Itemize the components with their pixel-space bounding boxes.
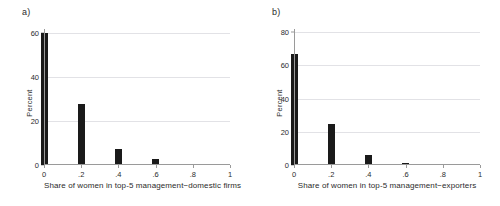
panel-a-x-axis-title: Share of women in top-5 management−domes… xyxy=(44,181,230,190)
panel-b-x-tick-label: 0 xyxy=(292,170,296,179)
panel-b-label: b) xyxy=(272,7,280,17)
panel-a-x-tick-mark xyxy=(118,165,119,168)
panel-b-x-tick-mark xyxy=(480,165,481,168)
panel-b-y-tick-label: 80 xyxy=(281,28,294,37)
panel-a-x-tick-label: .4 xyxy=(115,170,121,179)
panel-a-x-tick-label: .6 xyxy=(152,170,158,179)
panel-b-x-tick-label: 1 xyxy=(478,170,482,179)
panel-b-gridline xyxy=(294,99,480,100)
panel-a-x-tick-label: .2 xyxy=(78,170,84,179)
panel-b-x-tick-label: .2 xyxy=(328,170,334,179)
panel-b-bar xyxy=(328,124,335,165)
panel-b-x-tick-mark xyxy=(443,165,444,168)
panel-a: a) Percent 02040600.2.4.6.81 Share of wo… xyxy=(0,0,250,206)
panel-b-gridline xyxy=(294,65,480,66)
panel-a-gridline xyxy=(44,121,230,122)
panel-a-x-tick-mark xyxy=(230,165,231,168)
panel-a-x-tick-mark xyxy=(156,165,157,168)
panel-b-x-tick-label: .8 xyxy=(440,170,446,179)
panel-b-plot-area: 0204060800.2.4.6.81 xyxy=(294,29,480,165)
panel-a-y-axis-line xyxy=(44,29,45,165)
panel-b-x-tick-mark xyxy=(406,165,407,168)
panel-b-plot-inner: 0204060800.2.4.6.81 xyxy=(294,29,480,165)
panel-a-x-tick-label: .8 xyxy=(190,170,196,179)
panel-b-x-axis-title: Share of women in top-5 management−expor… xyxy=(294,181,480,190)
panel-b-gridline xyxy=(294,32,480,33)
panel-a-bar xyxy=(78,104,85,165)
figure-two-panel-histograms: a) Percent 02040600.2.4.6.81 Share of wo… xyxy=(0,0,500,206)
panel-b-x-tick-mark xyxy=(294,165,295,168)
panel-b-x-tick-label: .6 xyxy=(402,170,408,179)
panel-a-x-axis-line xyxy=(44,164,230,165)
panel-a-label: a) xyxy=(22,7,30,17)
panel-a-x-tick-label: 0 xyxy=(42,170,46,179)
panel-b-x-axis-line xyxy=(294,164,480,165)
panel-a-plot-area: 02040600.2.4.6.81 xyxy=(44,29,230,165)
panel-b-y-axis-line xyxy=(294,29,295,165)
panel-a-x-tick-mark xyxy=(44,165,45,168)
panel-a-x-tick-mark xyxy=(81,165,82,168)
panel-a-gridline xyxy=(44,33,230,34)
panel-a-gridline xyxy=(44,77,230,78)
panel-b-x-tick-mark xyxy=(368,165,369,168)
panel-b: b) Percent 0204060800.2.4.6.81 Share of … xyxy=(250,0,500,206)
panel-a-x-tick-label: 1 xyxy=(228,170,232,179)
panel-b-x-tick-mark xyxy=(331,165,332,168)
panel-a-bar xyxy=(115,149,122,165)
panel-a-x-tick-mark xyxy=(193,165,194,168)
panel-a-y-axis-title: Percent xyxy=(25,89,34,116)
panel-b-x-tick-label: .4 xyxy=(365,170,371,179)
panel-b-gridline xyxy=(294,132,480,133)
panel-a-plot-inner: 02040600.2.4.6.81 xyxy=(44,29,230,165)
